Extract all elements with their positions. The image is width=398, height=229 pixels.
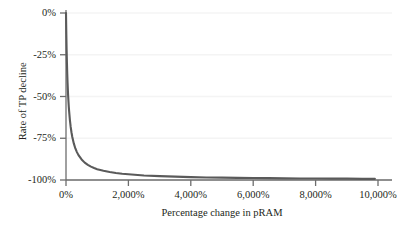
x-axis-title: Percentage change in pRAM [66, 208, 378, 219]
y-tick-label-100: -100% [0, 175, 56, 186]
chart-figure: 0% -25% -50% -75% -100% 0% 2,000% 4,000%… [0, 0, 398, 229]
x-tick-label-10000: 10,000% [359, 190, 397, 201]
x-tick-label-0: 0% [59, 190, 73, 201]
x-tick-label-8000: 8,000% [299, 190, 331, 201]
x-tick-label-2000: 2,000% [112, 190, 144, 201]
axes [66, 10, 392, 180]
y-axis-title: Rate of TP decline [18, 26, 29, 176]
x-tick-label-4000: 4,000% [175, 190, 207, 201]
y-axis-ticks [60, 13, 66, 180]
x-axis-ticks [66, 180, 378, 186]
y-tick-label-0: 0% [0, 8, 56, 19]
gridlines [66, 13, 392, 180]
x-tick-label-6000: 6,000% [237, 190, 269, 201]
